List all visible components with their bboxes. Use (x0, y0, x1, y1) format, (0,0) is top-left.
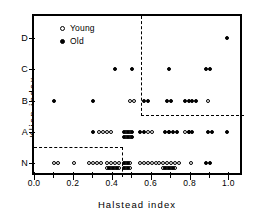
x-axis-tick-label: 0.8 (183, 179, 196, 188)
x-axis-tick (131, 172, 132, 178)
data-point-old (208, 67, 212, 71)
filled-circle-icon (60, 39, 65, 44)
data-point-young (99, 161, 103, 165)
x-axis-tick (170, 172, 171, 178)
y-axis-tick-label: B (22, 96, 28, 105)
data-point-young (206, 99, 210, 103)
y-axis-tick (29, 101, 35, 102)
data-point-old (126, 161, 130, 165)
y-axis-tick-label: N (21, 159, 28, 168)
data-point-old (126, 166, 130, 170)
data-point-old (190, 130, 194, 134)
data-point-old (142, 130, 146, 134)
x-axis-tick (92, 172, 93, 178)
data-point-old (171, 166, 175, 170)
data-point-young (72, 161, 76, 165)
data-point-old (113, 67, 117, 71)
data-point-old (52, 99, 56, 103)
data-point-old (225, 36, 229, 40)
y-axis-tick-label: D (21, 34, 28, 43)
x-axis-tick-label: 0.0 (28, 179, 41, 188)
data-point-old (130, 130, 134, 134)
data-point-old (194, 99, 198, 103)
y-axis-tick (29, 132, 35, 133)
y-axis-tick-label: C (21, 65, 28, 74)
x-axis-title: Halstead index (98, 199, 176, 210)
y-axis-tick (29, 38, 35, 39)
data-point-old (208, 161, 212, 165)
legend-item-old: Old (60, 35, 95, 48)
data-point-young (132, 99, 136, 103)
data-point-old (115, 166, 119, 170)
data-point-old (91, 99, 95, 103)
legend-label-old: Old (70, 37, 84, 46)
data-point-young (56, 161, 60, 165)
data-point-old (130, 135, 134, 139)
scatter-plot-figure: Klien index Halstead index Young Old NAB… (0, 0, 253, 213)
data-point-old (169, 99, 173, 103)
x-axis-tick (209, 172, 210, 178)
legend: Young Old (60, 22, 95, 48)
y-axis-tick (29, 163, 35, 164)
y-axis-tick (29, 69, 35, 70)
x-axis-tick-label: 0.4 (105, 179, 118, 188)
y-axis-tick-label: A (22, 127, 28, 136)
data-point-young (189, 161, 193, 165)
open-circle-icon (60, 26, 65, 31)
x-axis-tick-label: 0.2 (67, 179, 80, 188)
data-point-old (91, 130, 95, 134)
x-axis-tick (53, 172, 54, 178)
plot-area: Young Old NABCD 0.00.20.40.60.81.0 (32, 14, 242, 175)
data-point-old (146, 99, 150, 103)
data-point-young (109, 130, 113, 134)
data-point-young (150, 130, 154, 134)
x-axis-tick-label: 1.0 (222, 179, 235, 188)
data-point-old (210, 130, 214, 134)
legend-item-young: Young (60, 22, 95, 35)
x-axis-tick-label: 0.6 (144, 179, 157, 188)
data-point-old (130, 67, 134, 71)
data-point-old (175, 130, 179, 134)
data-point-old (225, 130, 229, 134)
data-point-young (117, 161, 121, 165)
legend-label-young: Young (70, 24, 95, 33)
data-point-old (167, 67, 171, 71)
data-point-young (177, 161, 181, 165)
